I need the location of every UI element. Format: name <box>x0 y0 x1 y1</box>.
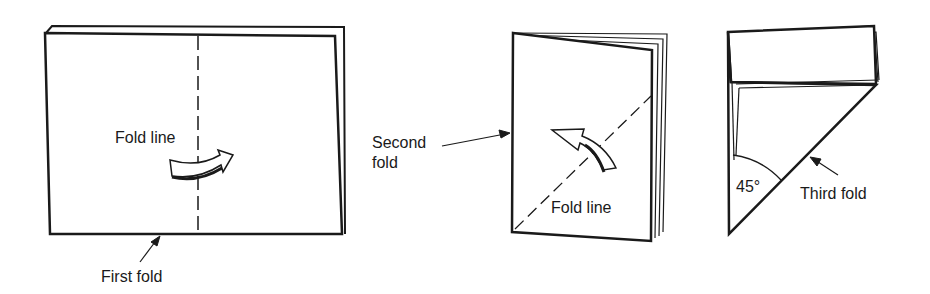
third-fold-label: Third fold <box>800 185 867 203</box>
angle-arc <box>733 155 781 180</box>
arrowhead-icon <box>151 236 160 246</box>
first-fold-label: First fold <box>101 268 162 286</box>
second-fold-label-line1: Second <box>372 134 426 152</box>
inner-pages <box>732 82 734 160</box>
folding-diagram <box>0 0 930 294</box>
arrowhead-icon <box>810 157 821 166</box>
panel-first-fold <box>45 26 345 262</box>
fold-line-label-1: Fold line <box>115 129 175 147</box>
front-sheet <box>45 33 342 234</box>
fold-line-label-2: Fold line <box>551 199 611 217</box>
top-flap <box>728 26 876 84</box>
second-fold-label-line2: fold <box>372 154 398 172</box>
second-fold-pointer <box>442 134 505 146</box>
inner-pages <box>736 88 739 155</box>
angle-label: 45° <box>736 178 760 196</box>
arrowhead-icon <box>499 130 510 138</box>
